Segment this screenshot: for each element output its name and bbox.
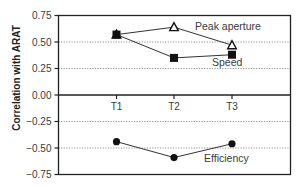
square-marker xyxy=(170,54,178,62)
y-tick-label: −0.75 xyxy=(26,169,52,180)
y-axis-label: Correlation with ARAT xyxy=(11,25,22,131)
y-tick-label: −0.25 xyxy=(26,116,52,127)
speed-label: Speed xyxy=(212,56,243,68)
circle-marker xyxy=(170,154,177,161)
circle-marker xyxy=(228,140,235,147)
efficiency-label: Efficiency xyxy=(204,152,249,164)
y-tick-label: 0.50 xyxy=(32,37,52,48)
y-tick-label: 0.00 xyxy=(32,90,52,101)
y-tick-label: 0.25 xyxy=(32,63,52,74)
x-tick-label-t1: T1 xyxy=(111,101,123,112)
square-marker xyxy=(113,31,121,39)
x-tick-label-t3: T3 xyxy=(226,101,238,112)
triangle-marker xyxy=(170,23,179,31)
y-axis-ticks: 0.750.500.250.00−0.25−0.50−0.75 xyxy=(26,10,58,180)
x-tick-label-t2: T2 xyxy=(168,101,180,112)
line-chart: 0.750.500.250.00−0.25−0.50−0.75 T1T2T3 P… xyxy=(0,0,302,187)
y-tick-label: 0.75 xyxy=(32,10,52,21)
series-layer xyxy=(112,23,236,161)
circle-marker xyxy=(113,138,120,145)
peak-aperture-label: Peak aperture xyxy=(195,20,261,32)
x-axis-ticks: T1T2T3 xyxy=(111,95,239,112)
y-tick-label: −0.50 xyxy=(26,143,52,154)
